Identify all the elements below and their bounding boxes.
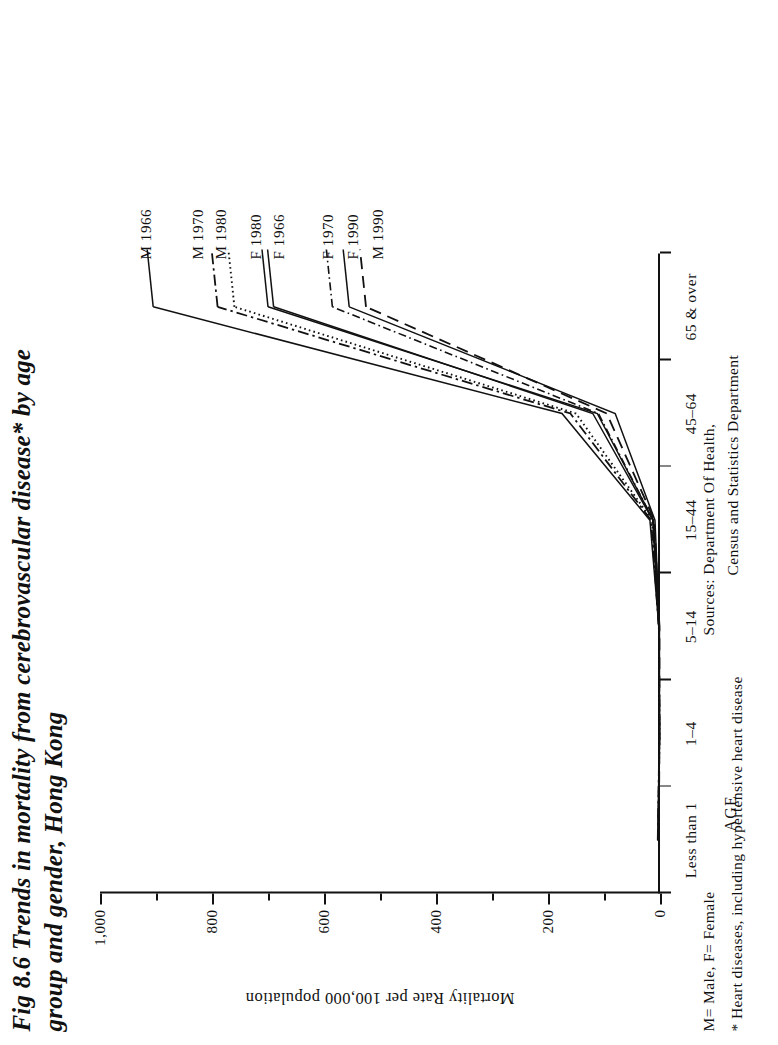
y-tick-0 (660, 893, 662, 904)
series-line-f-1980 (268, 306, 659, 839)
figure-title: Fig 8.6 Trends in mortality from cerebro… (6, 331, 70, 1031)
x-tick-boundary-6 (660, 251, 671, 253)
x-tick-boundary-3 (660, 571, 671, 573)
legend-item-f-1966[interactable]: F 1966 (271, 213, 288, 259)
y-tick-label-400: 400 (428, 909, 445, 933)
y-axis-title: Mortality Rate per 100,000 population (245, 987, 514, 1007)
y-tick-minor-900 (156, 893, 158, 900)
series-line-m-1980 (234, 306, 659, 839)
legend-item-m-1990[interactable]: M 1990 (370, 208, 387, 259)
x-tick-label-65-and-over: 65 & over (682, 273, 700, 340)
y-tick-label-1000: 1,000 (92, 909, 109, 945)
y-tick-label-600: 600 (316, 909, 333, 933)
y-tick-minor-100 (604, 893, 606, 900)
y-tick-minor-300 (492, 893, 494, 900)
sources-line-2: Census and Statistics Department (724, 354, 742, 575)
x-tick-label-15-44: 15–44 (682, 499, 700, 540)
x-tick-label-45-64: 45–64 (682, 392, 700, 433)
plot-area: Mortality Rate per 100,000 population 0 … (100, 253, 660, 893)
y-tick-label-0: 0 (652, 909, 669, 917)
x-tick-boundary-5 (660, 358, 671, 360)
series-line-f-1970 (332, 306, 659, 839)
disease-footnote: * Heart diseases, including hypertensive… (728, 676, 746, 1031)
y-tick-label-800: 800 (204, 909, 221, 933)
x-tick-label-less-than-1: Less than 1 (682, 802, 700, 878)
legend-item-m-1980[interactable]: M 1980 (213, 208, 230, 259)
legend-item-m-1966[interactable]: M 1966 (138, 208, 155, 259)
y-tick-800 (212, 893, 214, 904)
figure-title-line-1: Fig 8.6 Trends in mortality from cerebro… (8, 348, 35, 1031)
figure-stage: Fig 8.6 Trends in mortality from cerebro… (0, 0, 778, 1045)
x-tick-boundary-2 (660, 678, 671, 680)
y-tick-1000 (100, 893, 102, 904)
series-line-f-1966 (274, 306, 660, 839)
series-lines (100, 253, 660, 893)
y-tick-minor-700 (268, 893, 270, 900)
x-tick-boundary-0 (660, 891, 671, 893)
x-tick-label-5-14: 5–14 (682, 610, 700, 643)
y-tick-400 (436, 893, 438, 904)
y-tick-label-200: 200 (540, 909, 557, 933)
x-tick-label-1-4: 1–4 (682, 721, 700, 746)
series-line-f-1990 (349, 306, 659, 839)
figure-title-line-2: group and gender, Hong Kong (38, 331, 70, 1031)
y-tick-minor-500 (380, 893, 382, 900)
series-line-m-1966 (153, 306, 659, 839)
x-tick-boundary-1 (660, 785, 671, 787)
legend-item-f-1970[interactable]: F 1970 (320, 213, 337, 259)
y-tick-600 (324, 893, 326, 904)
gender-key-note: M= Male, F= Female (700, 891, 718, 1031)
y-tick-200 (548, 893, 550, 904)
legend-item-f-1980[interactable]: F 1980 (248, 213, 265, 259)
legend-item-m-1970[interactable]: M 1970 (190, 208, 207, 259)
legend-item-f-1990[interactable]: F 1990 (345, 213, 362, 259)
sources-line-1: Sources: Department Of Health, (700, 423, 718, 635)
series-line-m-1970 (218, 306, 660, 839)
x-tick-boundary-4 (660, 465, 671, 467)
